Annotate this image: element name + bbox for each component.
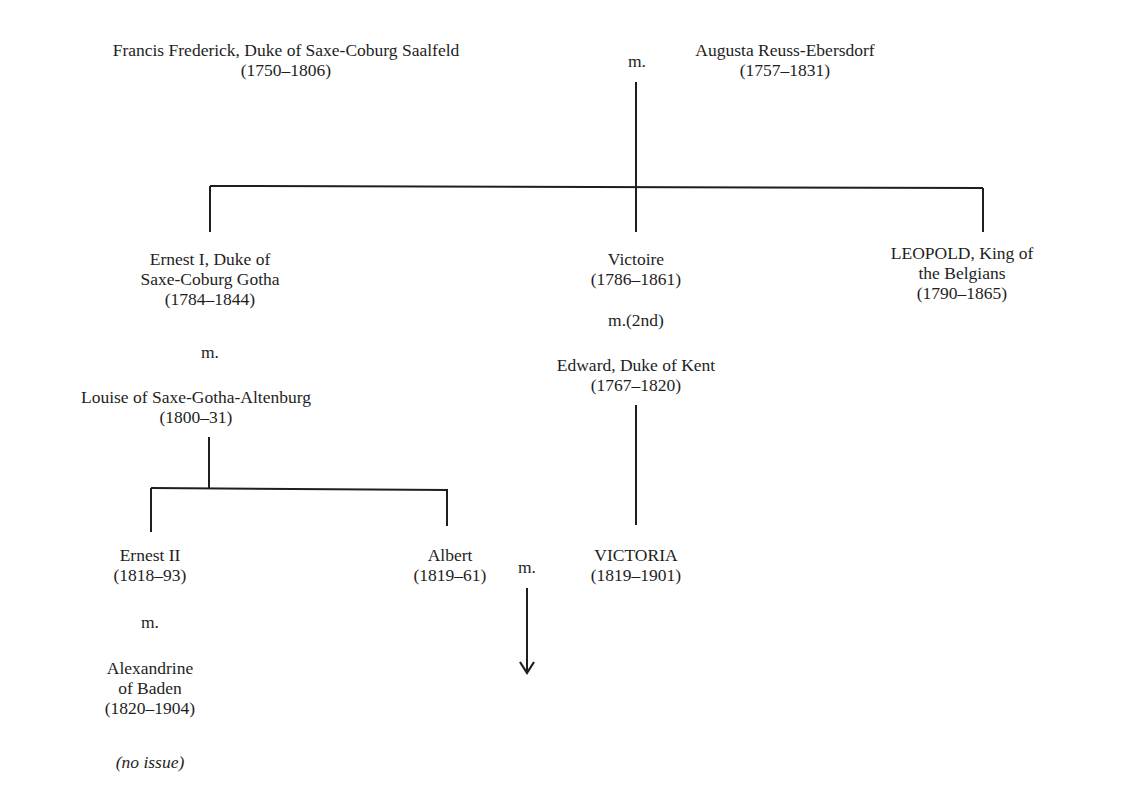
ernest1-children-bar xyxy=(151,488,448,490)
person-dates: (1790–1865) xyxy=(891,283,1033,303)
person-edward: Edward, Duke of Kent (1767–1820) xyxy=(557,355,715,395)
person-ernest-i: Ernest I, Duke of Saxe-Coburg Gotha (178… xyxy=(140,249,279,309)
person-leopold: LEOPOLD, King of the Belgians (1790–1865… xyxy=(891,243,1033,303)
person-title: the Belgians xyxy=(891,263,1033,283)
person-francis-frederick: Francis Frederick, Duke of Saxe-Coburg S… xyxy=(113,40,460,80)
person-dates: (1750–1806) xyxy=(113,60,460,80)
person-dates: (1786–1861) xyxy=(591,269,681,289)
person-title: Saxe-Coburg Gotha xyxy=(140,269,279,289)
person-title: of Baden xyxy=(105,678,195,698)
person-dates: (1784–1844) xyxy=(140,289,279,309)
marriage-label: m. xyxy=(141,612,159,632)
person-name: Louise of Saxe-Gotha-Altenburg xyxy=(81,387,311,407)
person-dates: (1800–31) xyxy=(81,407,311,427)
person-name: VICTORIA xyxy=(591,545,681,565)
person-name: Albert xyxy=(414,545,487,565)
person-name: Ernest II xyxy=(114,545,187,565)
no-issue-note: (no issue) xyxy=(116,752,185,772)
marriage-label: m. xyxy=(628,51,646,71)
person-dates: (1820–1904) xyxy=(105,698,195,718)
person-dates: (1819–61) xyxy=(414,565,487,585)
marriage-label: m. xyxy=(518,557,536,577)
person-victoria: VICTORIA (1819–1901) xyxy=(591,545,681,585)
person-albert: Albert (1819–61) xyxy=(414,545,487,585)
person-name: Ernest I, Duke of xyxy=(140,249,279,269)
person-name: Alexandrine xyxy=(105,658,195,678)
person-name: Francis Frederick, Duke of Saxe-Coburg S… xyxy=(113,40,460,60)
person-name: Edward, Duke of Kent xyxy=(557,355,715,375)
person-alexandrine: Alexandrine of Baden (1820–1904) xyxy=(105,658,195,718)
person-dates: (1818–93) xyxy=(114,565,187,585)
person-louise: Louise of Saxe-Gotha-Altenburg (1800–31) xyxy=(81,387,311,427)
children-bar xyxy=(210,186,983,188)
person-dates: (1767–1820) xyxy=(557,375,715,395)
person-augusta: Augusta Reuss-Ebersdorf (1757–1831) xyxy=(695,40,874,80)
person-dates: (1819–1901) xyxy=(591,565,681,585)
person-dates: (1757–1831) xyxy=(695,60,874,80)
person-ernest-ii: Ernest II (1818–93) xyxy=(114,545,187,585)
person-name: LEOPOLD, King of xyxy=(891,243,1033,263)
marriage-label: m. xyxy=(201,342,219,362)
person-victoire: Victoire (1786–1861) xyxy=(591,249,681,289)
person-name: Augusta Reuss-Ebersdorf xyxy=(695,40,874,60)
person-name: Victoire xyxy=(591,249,681,269)
marriage-label: m.(2nd) xyxy=(608,310,664,330)
